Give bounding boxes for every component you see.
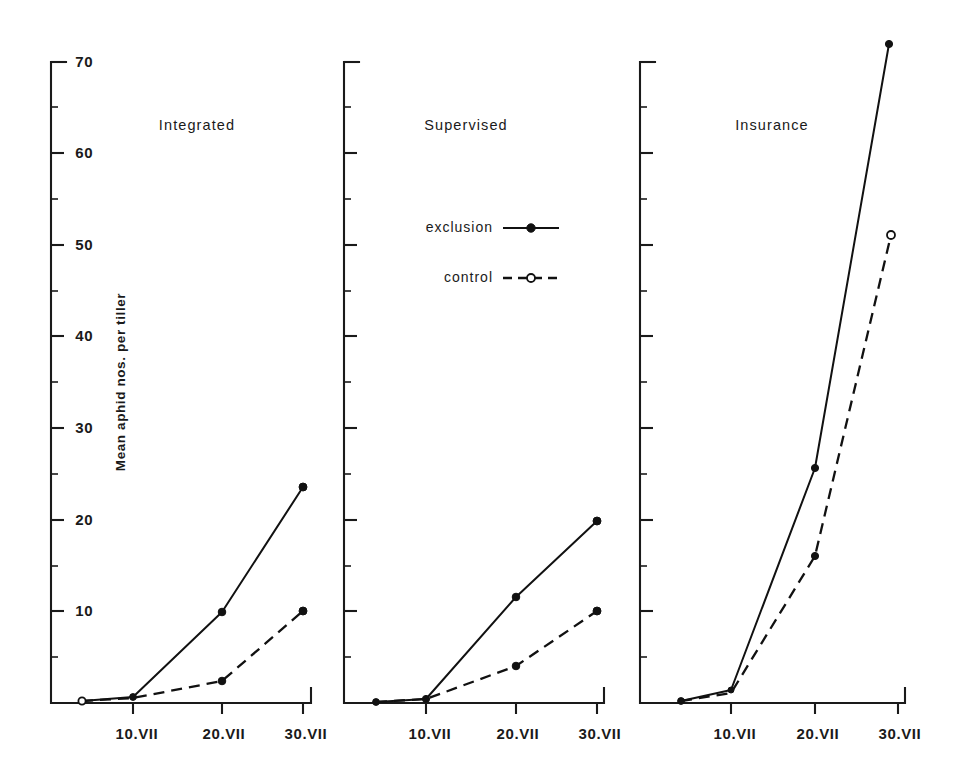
y-tick-label-30: 30: [75, 419, 93, 436]
panel3-y-ticks: [640, 62, 655, 611]
legend-label-exclusion: exclusion: [426, 219, 493, 235]
y-tick-label-10: 10: [75, 602, 93, 619]
panel1-x-label-20: 20.VII: [203, 725, 246, 742]
panel2-x-label-30: 30.VII: [579, 725, 622, 742]
panel2-x-label-20: 20.VII: [497, 725, 540, 742]
panel2-y-ticks: [344, 62, 359, 611]
panel1-x-label-10: 10.VII: [116, 725, 159, 742]
panel1-control-line: [82, 611, 303, 701]
y-tick-label-20: 20: [75, 511, 93, 528]
panel1-x-ticks: [133, 703, 303, 714]
panel1-x-label-30: 30.VII: [285, 725, 328, 742]
panel-title-insurance: Insurance: [735, 117, 809, 133]
panel-title-integrated: Integrated: [159, 117, 235, 133]
figure-container: 70 60 50 40 30 20 10 Mean aphid nos. per…: [0, 0, 956, 776]
panel2-control-markers: [373, 607, 601, 705]
panel3-x-label-30: 30.VII: [879, 725, 922, 742]
panel2-axis: [344, 62, 604, 703]
panel2-x-label-10: 10.VII: [409, 725, 452, 742]
panel3-control-markers: [678, 231, 895, 704]
legend: exclusion control: [426, 219, 559, 285]
panel3-x-ticks: [731, 703, 898, 714]
panel2-exclusion-markers: [422, 517, 601, 703]
panel1-control-markers: [78, 607, 307, 705]
y-tick-label-40: 40: [75, 327, 93, 344]
panel3-exclusion-markers: [728, 40, 893, 693]
legend-exclusion-marker: [527, 224, 535, 232]
y-axis-title: Mean aphid nos. per tiller: [113, 293, 128, 472]
panel-title-supervised: Supervised: [424, 117, 508, 133]
panel-integrated: 70 60 50 40 30 20 10 Mean aphid nos. per…: [51, 53, 327, 742]
panel2-control-line: [376, 611, 597, 702]
y-tick-label-70: 70: [75, 53, 93, 70]
panel1-exclusion-markers: [130, 483, 307, 700]
panel3-axis: [640, 62, 905, 703]
y-tick-label-50: 50: [75, 236, 93, 253]
aphid-line-chart: 70 60 50 40 30 20 10 Mean aphid nos. per…: [0, 0, 956, 776]
legend-label-control: control: [444, 269, 493, 285]
panel-insurance: 10.VII 20.VII 30.VII Insurance: [640, 40, 921, 742]
legend-control-marker: [527, 274, 535, 282]
panel2-exclusion-line: [376, 521, 597, 702]
y-tick-label-60: 60: [75, 144, 93, 161]
panel3-control-line: [681, 235, 891, 701]
panel-supervised: 10.VII 20.VII 30.VII Supervised: [344, 62, 621, 742]
panel1-y-ticks: [51, 62, 66, 611]
panel3-x-label-10: 10.VII: [714, 725, 757, 742]
panel3-x-label-20: 20.VII: [797, 725, 840, 742]
panel1-exclusion-line: [82, 487, 303, 701]
panel2-x-ticks: [426, 703, 597, 714]
